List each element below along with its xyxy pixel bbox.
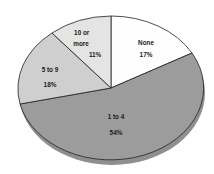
label-10-or-more-line2: more: [69, 40, 103, 48]
label-5-to-9: 5 to 9 18%: [33, 66, 67, 88]
label-5-to-9-pct: 18%: [33, 81, 67, 89]
label-5-to-9-name: 5 to 9: [33, 66, 67, 74]
label-1-to-4: 1 to 4 54%: [99, 113, 133, 136]
label-1-to-4-pct: 54%: [99, 129, 133, 137]
label-10-or-more: 10 or more 11%: [69, 29, 103, 59]
label-none-name: None: [129, 39, 163, 47]
label-10-or-more-line1: 10 or: [69, 29, 103, 37]
label-none-pct: 17%: [129, 51, 163, 59]
label-none: None 17%: [129, 39, 163, 58]
label-10-or-more-pct: 11%: [69, 51, 103, 59]
label-1-to-4-name: 1 to 4: [99, 113, 133, 121]
